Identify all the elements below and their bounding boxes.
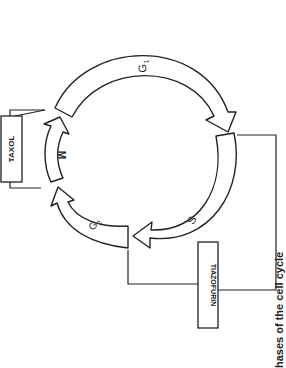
s-phase-arrow <box>133 133 236 248</box>
taxol-label: TAXOL <box>7 136 16 163</box>
m-phase-arrow <box>44 117 69 182</box>
g2-phase-arrow <box>51 187 128 248</box>
cell-cycle-diagram: TAXOL TIAZOFURIN G1 S G2 M hases of the … <box>0 0 286 368</box>
caption-fragment: hases of the cell cycle <box>273 252 285 368</box>
m-label: M <box>56 151 67 159</box>
tiazofurin-label: TIAZOFURIN <box>210 264 217 306</box>
